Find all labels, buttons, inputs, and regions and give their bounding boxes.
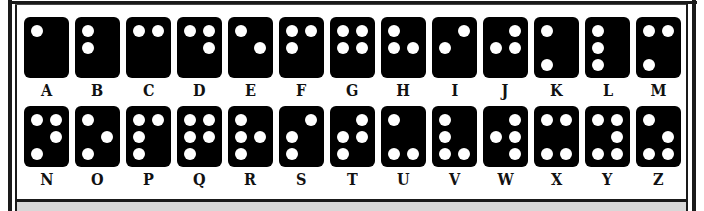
braille-dot-1 <box>388 114 400 126</box>
braille-card <box>228 17 273 78</box>
braille-cell-z: Z <box>636 106 681 189</box>
letter-label: L <box>602 80 612 100</box>
letter-label: K <box>550 80 563 100</box>
frame-right-inner-border <box>686 4 688 211</box>
braille-dot-3 <box>592 59 604 71</box>
letter-label: X <box>551 169 562 189</box>
braille-dot-5 <box>509 131 521 143</box>
braille-dot-3 <box>541 148 553 160</box>
braille-cell-n: N <box>24 106 69 189</box>
braille-dot-3 <box>388 148 400 160</box>
braille-dot-5 <box>50 131 62 143</box>
braille-dot-1 <box>235 114 247 126</box>
braille-dot-3 <box>235 148 247 160</box>
braille-card <box>534 106 579 167</box>
braille-dot-3 <box>592 148 604 160</box>
braille-cell-h: H <box>381 17 426 100</box>
braille-dot-3 <box>184 148 196 160</box>
braille-dot-2 <box>337 42 349 54</box>
braille-dot-2 <box>388 42 400 54</box>
braille-cell-y: Y <box>585 106 630 189</box>
braille-card <box>534 17 579 78</box>
braille-dot-1 <box>337 25 349 37</box>
braille-cell-v: V <box>432 106 477 189</box>
frame-right-border <box>692 0 696 211</box>
braille-dot-4 <box>50 114 62 126</box>
braille-cell-b: B <box>75 17 120 100</box>
letter-label: Z <box>653 169 664 189</box>
braille-dot-3 <box>286 148 298 160</box>
braille-dot-5 <box>203 42 215 54</box>
braille-dot-1 <box>31 114 43 126</box>
braille-row-a-to-m: ABCDEFGHIJKLM <box>24 17 681 100</box>
letter-label: F <box>296 80 306 100</box>
braille-dot-4 <box>152 25 164 37</box>
braille-dot-4 <box>203 114 215 126</box>
braille-dot-1 <box>388 25 400 37</box>
braille-card <box>24 106 69 167</box>
letter-label: R <box>244 169 256 189</box>
braille-dot-5 <box>662 131 674 143</box>
letter-label: N <box>40 169 53 189</box>
braille-cell-l: L <box>585 17 630 100</box>
letter-label: B <box>91 80 103 100</box>
braille-dot-1 <box>184 114 196 126</box>
braille-dot-5 <box>509 42 521 54</box>
letter-label: Q <box>193 169 206 189</box>
braille-card <box>585 106 630 167</box>
braille-dot-4 <box>305 25 317 37</box>
braille-dot-2 <box>82 42 94 54</box>
braille-dot-2 <box>133 131 145 143</box>
braille-cell-q: Q <box>177 106 222 189</box>
braille-cell-c: C <box>126 17 171 100</box>
braille-card <box>75 106 120 167</box>
frame-left-border <box>8 0 12 211</box>
braille-dot-1 <box>439 114 451 126</box>
letter-label: D <box>193 80 206 100</box>
braille-cell-i: I <box>432 17 477 100</box>
braille-dot-2 <box>592 42 604 54</box>
braille-card <box>177 17 222 78</box>
braille-dot-3 <box>337 148 349 160</box>
letter-label: G <box>346 80 358 100</box>
braille-card <box>279 17 324 78</box>
braille-dot-1 <box>133 114 145 126</box>
letter-label: O <box>91 169 104 189</box>
braille-dot-4 <box>560 114 572 126</box>
braille-card <box>330 106 375 167</box>
braille-dot-1 <box>592 25 604 37</box>
braille-dot-3 <box>643 59 655 71</box>
letter-label: J <box>502 80 509 100</box>
braille-dot-4 <box>509 114 521 126</box>
braille-card <box>432 17 477 78</box>
braille-dot-1 <box>643 114 655 126</box>
letter-label: T <box>347 169 358 189</box>
braille-dot-4 <box>509 25 521 37</box>
braille-card <box>381 17 426 78</box>
letter-label: W <box>497 169 513 189</box>
braille-cell-a: A <box>24 17 69 100</box>
letter-label: E <box>245 80 256 100</box>
braille-dot-1 <box>31 25 43 37</box>
braille-dot-5 <box>407 42 419 54</box>
braille-dot-2 <box>235 131 247 143</box>
braille-dot-6 <box>407 148 419 160</box>
letter-label: S <box>296 169 306 189</box>
braille-dot-5 <box>254 42 266 54</box>
braille-card <box>279 106 324 167</box>
braille-card <box>585 17 630 78</box>
braille-dot-5 <box>203 131 215 143</box>
braille-dot-1 <box>133 25 145 37</box>
braille-dot-2 <box>286 42 298 54</box>
braille-dot-4 <box>203 25 215 37</box>
braille-cell-t: T <box>330 106 375 189</box>
bottom-gray-band <box>17 202 686 211</box>
braille-dot-2 <box>490 131 502 143</box>
braille-dot-2 <box>490 42 502 54</box>
braille-dot-3 <box>439 148 451 160</box>
braille-cell-f: F <box>279 17 324 100</box>
braille-dot-3 <box>31 148 43 160</box>
braille-dot-4 <box>356 114 368 126</box>
letter-label: H <box>397 80 411 100</box>
braille-cell-x: X <box>534 106 579 189</box>
